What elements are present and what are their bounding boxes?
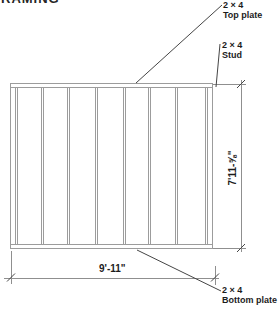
stud-line	[148, 88, 151, 244]
top-plate-label: 2 × 4 Top plate	[223, 1, 262, 20]
width-extension-line-left	[11, 251, 12, 284]
top-plate-leader-line	[136, 5, 222, 83]
stud-line	[41, 88, 44, 244]
top-plate-name-text: Top plate	[223, 11, 262, 21]
stud-leader-line	[216, 44, 220, 87]
bottom-plate-label: 2 × 4 Bottom plate	[222, 286, 277, 305]
bottom-plate-name-text: Bottom plate	[222, 296, 277, 306]
stud-line	[15, 88, 18, 244]
height-dimension-line	[241, 80, 242, 252]
stud-line	[123, 88, 126, 244]
stud-line	[95, 88, 98, 244]
stud-line	[205, 88, 208, 244]
page-title: RAMING	[1, 0, 60, 6]
bottom-plate-leader-line	[137, 250, 221, 291]
stud-line	[175, 88, 178, 244]
stud-name-text: Stud	[222, 51, 242, 61]
wall-framing-diagram: RAMING 2 × 4 Top plate 2 × 4 Stud 2 × 4 …	[0, 0, 279, 320]
height-dimension-text: 7'11-⅝"	[227, 151, 238, 186]
width-extension-line-right	[215, 266, 216, 285]
wall-frame	[10, 83, 213, 249]
studs-layer	[11, 84, 212, 248]
stud-line	[67, 88, 70, 244]
width-dimension-text: 9'-11"	[99, 263, 126, 274]
width-dimension-line	[4, 278, 219, 279]
stud-label: 2 × 4 Stud	[222, 41, 242, 60]
